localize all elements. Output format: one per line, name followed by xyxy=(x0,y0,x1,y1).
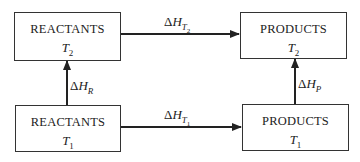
box-title: REACTANTS xyxy=(16,115,120,130)
box-reactants-t1: REACTANTS T1 xyxy=(15,105,121,152)
label-delta-h-p: ΔHP xyxy=(298,76,321,94)
box-temperature: T1 xyxy=(243,132,348,150)
box-title: REACTANTS xyxy=(15,22,120,37)
box-products-t1: PRODUCTS T1 xyxy=(242,104,349,151)
box-products-t2: PRODUCTS T2 xyxy=(240,12,347,59)
box-temperature: T1 xyxy=(16,133,120,151)
box-reactants-t2: REACTANTS T2 xyxy=(14,12,121,61)
box-temperature: T2 xyxy=(241,40,346,58)
label-delta-h-r: ΔHR xyxy=(70,78,93,96)
box-temperature: T2 xyxy=(15,40,120,58)
label-delta-h-t2: ΔHT2 xyxy=(164,14,190,34)
box-title: PRODUCTS xyxy=(241,22,346,37)
box-title: PRODUCTS xyxy=(243,114,348,129)
label-delta-h-t1: ΔHT1 xyxy=(164,107,190,127)
